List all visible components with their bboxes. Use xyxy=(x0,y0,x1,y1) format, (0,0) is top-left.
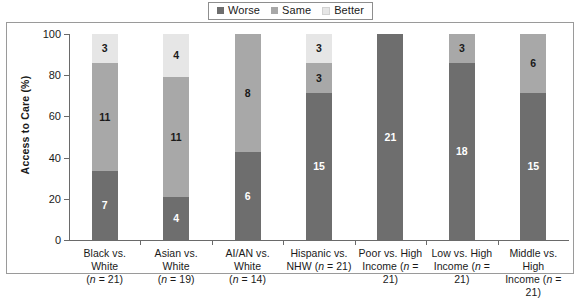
x-axis-label-line1: Low vs. High xyxy=(426,247,497,260)
x-tick-mark xyxy=(498,240,499,245)
bar-segment-better[interactable]: 3 xyxy=(306,34,332,63)
legend-label-worse: Worse xyxy=(228,5,260,16)
bar-segment-value: 18 xyxy=(456,146,468,157)
bar-segment-worse[interactable]: 15 xyxy=(520,93,546,240)
x-axis-label-line2: (n = 21) xyxy=(69,273,140,286)
plot-area: 020406080100 7113411468153321183156 xyxy=(69,34,569,240)
bar-group[interactable]: 1533 xyxy=(306,34,332,240)
bar-segment-value: 3 xyxy=(459,43,465,54)
bar-group[interactable]: 183 xyxy=(449,34,475,240)
x-axis-labels: Black vs. White(n = 21)Asian vs. White(n… xyxy=(69,247,569,283)
bar-segment-value: 3 xyxy=(316,73,322,84)
x-axis-label-line2: Income (n = 21) xyxy=(426,260,497,286)
legend-box: Worse Same Better xyxy=(208,2,373,20)
y-axis-title: Access to Care (%) xyxy=(19,55,31,195)
bar-segment-same[interactable]: 3 xyxy=(449,34,475,63)
y-tick-mark xyxy=(64,240,69,241)
bar-segment-value: 11 xyxy=(99,112,110,123)
x-tick-mark xyxy=(140,240,141,245)
bar-segment-better[interactable]: 4 xyxy=(163,34,189,77)
bar-segment-better[interactable]: 3 xyxy=(92,34,118,63)
y-tick-label: 100 xyxy=(43,29,61,40)
x-axis-label-line1: Black vs. White xyxy=(69,247,140,273)
x-axis-label: AI/AN vs. White(n = 14) xyxy=(212,247,283,286)
y-tick-label: 40 xyxy=(49,152,61,163)
bar-segment-value: 4 xyxy=(173,50,179,61)
y-tick-label: 80 xyxy=(49,70,61,81)
chart-frame: Access to Care (%) 020406080100 71134114… xyxy=(6,22,574,274)
bar-group[interactable]: 4114 xyxy=(163,34,189,240)
legend-label-better: Better xyxy=(334,5,364,16)
x-axis-label-line1: Hispanic vs. xyxy=(283,247,354,260)
y-tick-label: 20 xyxy=(49,193,61,204)
x-axis-label: Poor vs. HighIncome (n = 21) xyxy=(355,247,426,286)
x-axis-label-line1: Poor vs. High xyxy=(355,247,426,260)
bar-segment-value: 15 xyxy=(527,161,539,172)
bar-group[interactable]: 68 xyxy=(235,34,261,240)
bar-segment-worse[interactable]: 21 xyxy=(377,34,403,240)
x-tick-mark xyxy=(355,240,356,245)
square-swatch-icon xyxy=(271,7,278,14)
chart-legend: Worse Same Better xyxy=(0,2,581,20)
x-tick-mark xyxy=(426,240,427,245)
bar-series-container: 7113411468153321183156 xyxy=(69,34,569,240)
x-axis-label: Middle vs. HighIncome (n = 21) xyxy=(498,247,569,299)
bar-group[interactable]: 7113 xyxy=(92,34,118,240)
bar-group[interactable]: 156 xyxy=(520,34,546,240)
x-axis-label-line1: AI/AN vs. White xyxy=(212,247,283,273)
x-axis-label-line1: Middle vs. High xyxy=(498,247,569,273)
x-axis-label-line2: (n = 19) xyxy=(140,273,211,286)
x-axis-label-line1: Asian vs. White xyxy=(140,247,211,273)
square-swatch-icon xyxy=(217,7,224,14)
x-axis-label: Black vs. White(n = 21) xyxy=(69,247,140,286)
bar-segment-worse[interactable]: 7 xyxy=(92,171,118,240)
y-tick-label: 60 xyxy=(49,111,61,122)
bar-segment-worse[interactable]: 15 xyxy=(306,93,332,240)
bar-group[interactable]: 21 xyxy=(377,34,403,240)
x-axis-label: Asian vs. White(n = 19) xyxy=(140,247,211,286)
legend-item-same: Same xyxy=(271,5,311,16)
bar-segment-worse[interactable]: 4 xyxy=(163,197,189,240)
x-axis-label-line2: NHW (n = 21) xyxy=(283,260,354,273)
bar-segment-value: 4 xyxy=(173,213,179,224)
x-tick-mark xyxy=(212,240,213,245)
x-axis-label: Low vs. HighIncome (n = 21) xyxy=(426,247,497,286)
x-axis-line xyxy=(69,240,569,241)
legend-label-same: Same xyxy=(282,5,311,16)
bar-segment-value: 8 xyxy=(245,88,251,99)
bar-segment-same[interactable]: 8 xyxy=(235,34,261,152)
bar-segment-same[interactable]: 11 xyxy=(92,63,118,171)
x-axis-label-line2: Income (n = 21) xyxy=(355,260,426,286)
bar-segment-worse[interactable]: 6 xyxy=(235,152,261,240)
x-tick-mark xyxy=(283,240,284,245)
x-axis-label: Hispanic vs.NHW (n = 21) xyxy=(283,247,354,273)
x-axis-label-line2: (n = 14) xyxy=(212,273,283,286)
bar-segment-value: 11 xyxy=(171,132,182,143)
bar-segment-value: 3 xyxy=(316,43,322,54)
bar-segment-worse[interactable]: 18 xyxy=(449,63,475,240)
bar-segment-value: 6 xyxy=(245,191,251,202)
square-swatch-icon xyxy=(322,7,330,15)
bar-segment-same[interactable]: 6 xyxy=(520,34,546,93)
bar-segment-value: 6 xyxy=(530,58,536,69)
bar-segment-value: 21 xyxy=(385,132,397,143)
bar-segment-same[interactable]: 3 xyxy=(306,63,332,92)
x-axis-label-line2: Income (n = 21) xyxy=(498,273,569,299)
bar-segment-value: 15 xyxy=(313,161,325,172)
bar-segment-same[interactable]: 11 xyxy=(163,77,189,196)
bar-segment-value: 7 xyxy=(102,200,108,211)
bar-segment-value: 3 xyxy=(102,43,108,54)
y-tick-label: 0 xyxy=(55,235,61,246)
legend-item-better: Better xyxy=(322,5,364,16)
legend-item-worse: Worse xyxy=(217,5,260,16)
